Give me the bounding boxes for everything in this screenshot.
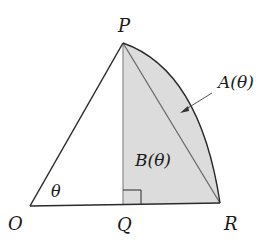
label-b-theta: B(θ): [134, 150, 171, 170]
label-a-theta: A(θ): [216, 72, 254, 92]
label-theta: θ: [51, 182, 61, 201]
sector-diagram: P O Q R θ B(θ) A(θ): [0, 0, 276, 251]
label-o: O: [8, 213, 23, 234]
label-r: R: [223, 213, 238, 234]
label-q: Q: [117, 214, 132, 235]
label-p: P: [117, 15, 131, 36]
segment-op: [30, 43, 123, 206]
